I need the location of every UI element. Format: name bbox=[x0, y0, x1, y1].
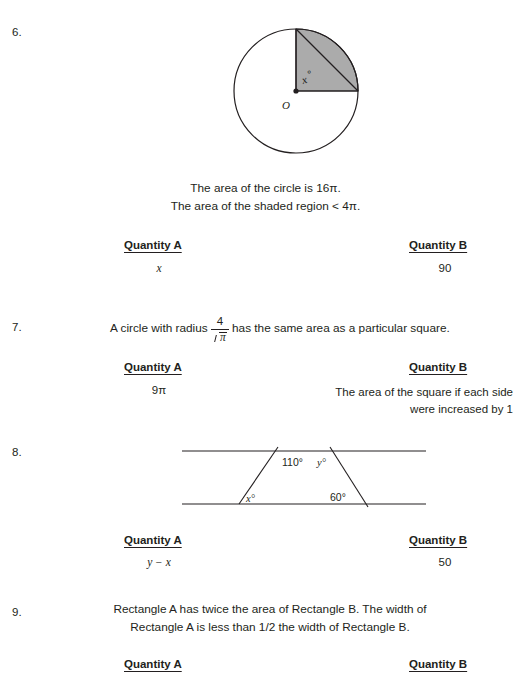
problem-8-quantity-b-header: Quantity B bbox=[409, 534, 467, 546]
circle-center-label: O bbox=[282, 99, 290, 111]
problem-6-quantity-a-value: x bbox=[114, 262, 204, 274]
problem-6-quantity-a-header: Quantity A bbox=[124, 239, 182, 251]
center-dot bbox=[293, 88, 298, 93]
problem-6-quantity-b-value: 90 bbox=[400, 262, 490, 274]
parallel-lines-figure-svg: 110° y° x° 60° bbox=[178, 440, 430, 515]
worksheet-page: 6. x ° O The area of the circle is 16π. … bbox=[0, 0, 531, 676]
problem-7-quantity-a-header: Quantity A bbox=[124, 361, 182, 373]
problem-6-statement-1: The area of the circle is 16π. bbox=[0, 180, 531, 197]
circle-figure-svg: x ° O bbox=[225, 22, 375, 167]
angle-label-60: 60° bbox=[330, 491, 346, 503]
fraction-denominator: π bbox=[211, 330, 229, 344]
problem-6-statement-2: The area of the shaded region < 4π. bbox=[0, 198, 531, 215]
angle-label-x: x° bbox=[245, 493, 256, 504]
fraction-numerator: 4 bbox=[211, 316, 229, 330]
problem-8-quantity-b-value: 50 bbox=[400, 556, 490, 568]
angle-label-y: y° bbox=[316, 457, 327, 468]
problem-7-quantity-a-value: 9π bbox=[114, 384, 204, 396]
problem-9-statement-1: Rectangle A has twice the area of Rectan… bbox=[60, 601, 480, 618]
problem-6-quantity-b-header: Quantity B bbox=[409, 239, 467, 251]
circle-figure: x ° O bbox=[225, 22, 375, 167]
angle-label-110: 110° bbox=[282, 456, 303, 468]
problem-8-quantity-a-value: y − x bbox=[114, 556, 204, 568]
problem-9-quantity-b-header: Quantity B bbox=[409, 658, 467, 670]
problem-8-quantity-a-header: Quantity A bbox=[124, 534, 182, 546]
problem-7-stem: A circle with radius 4 π has the same ar… bbox=[110, 315, 450, 342]
problem-7-quantity-b-header: Quantity B bbox=[409, 361, 467, 373]
problem-number-8: 8. bbox=[12, 446, 22, 458]
problem-9-statement-2: Rectangle A is less than 1/2 the width o… bbox=[60, 619, 480, 636]
parallel-lines-figure: 110° y° x° 60° bbox=[178, 440, 430, 515]
problem-7-stem-before: A circle with radius bbox=[110, 321, 208, 335]
problem-7-quantity-b-value: The area of the square if each side were… bbox=[330, 384, 513, 418]
problem-number-7: 7. bbox=[12, 321, 22, 333]
problem-9-quantity-a-header: Quantity A bbox=[124, 658, 182, 670]
problem-number-6: 6. bbox=[12, 26, 22, 38]
left-transversal-line bbox=[239, 447, 278, 504]
sqrt-pi-radicand: π bbox=[214, 331, 226, 344]
radius-fraction: 4 π bbox=[211, 316, 229, 343]
problem-7-stem-after: has the same area as a particular square… bbox=[232, 321, 450, 335]
problem-number-9: 9. bbox=[12, 606, 22, 618]
